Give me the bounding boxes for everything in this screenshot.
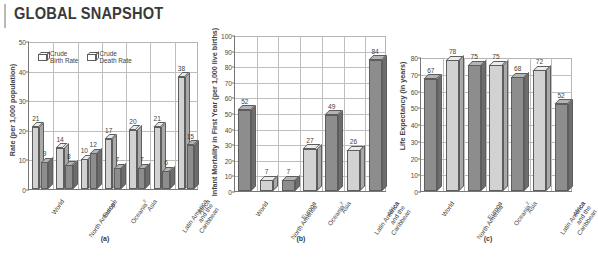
y-tick-label: 80 xyxy=(411,55,421,62)
y-axis-label-b: Infant Mortality in First Year (per 1,00… xyxy=(208,30,222,194)
y-tick-label: 10 xyxy=(19,157,29,164)
gridline-vertical xyxy=(300,36,301,191)
gridline-vertical xyxy=(508,58,509,191)
bar-value-label: 38 xyxy=(178,65,185,72)
bar-value-label: 75 xyxy=(492,53,499,60)
gridline-vertical xyxy=(344,36,345,191)
panel-caption-b: (b) xyxy=(208,235,394,242)
bar-value-label: 21 xyxy=(32,115,39,122)
gridline-vertical xyxy=(322,36,323,191)
bar-value-label: 21 xyxy=(154,115,161,122)
bar-value-label: 14 xyxy=(56,136,63,143)
bar-value-label: 15 xyxy=(187,133,194,140)
light-cube-icon xyxy=(38,52,47,61)
legend-label-death-rate: Crude Death Rate xyxy=(99,50,131,65)
bar-value-label: 10 xyxy=(81,147,88,154)
bar-value-label: 12 xyxy=(89,141,96,148)
bar-value-label: 6 xyxy=(164,159,168,166)
y-tick-label: 20 xyxy=(411,155,421,162)
bar-value-label: 8 xyxy=(67,153,71,160)
bar: 9 xyxy=(41,162,48,189)
y-tick-label: 60 xyxy=(225,95,235,102)
bar: 52 xyxy=(238,110,251,191)
page-title: GLOBAL SNAPSHOT xyxy=(14,4,163,24)
bar-value-label: 75 xyxy=(471,53,478,60)
chart-panel-c: Life Expectancy (in years) 0102030405060… xyxy=(396,30,580,262)
y-tick-label: 0 xyxy=(228,189,235,196)
bar-value-label: 26 xyxy=(350,138,357,145)
y-axis-label-c: Life Expectancy (in years) xyxy=(396,30,410,182)
bar: 20 xyxy=(129,130,136,189)
gridline-vertical xyxy=(551,58,552,191)
legend-label-birth-rate: Crude Birth Rate xyxy=(50,50,78,65)
bar: 27 xyxy=(303,149,316,191)
dark-cube-icon xyxy=(87,52,96,61)
legend-item-death-rate: Crude Death Rate xyxy=(87,50,131,65)
chart-panel-a: Rate (per 1,000 population) 010203040502… xyxy=(6,30,204,262)
gridline-horizontal xyxy=(29,101,198,102)
gridline-vertical xyxy=(443,58,444,191)
x-axis-label: World xyxy=(441,200,456,218)
gridline-vertical xyxy=(464,58,465,191)
y-tick-label: 0 xyxy=(22,187,29,194)
chart-panel-b: Infant Mortality in First Year (per 1,00… xyxy=(208,30,394,262)
bar-value-label: 52 xyxy=(241,98,248,105)
y-tick-label: 30 xyxy=(225,142,235,149)
y-tick-label: 50 xyxy=(19,39,29,46)
gridline-vertical xyxy=(175,42,176,189)
y-tick-label: 0 xyxy=(414,189,421,196)
gridline-vertical xyxy=(486,58,487,191)
bar-value-label: 7 xyxy=(286,168,290,175)
y-axis-label-a: Rate (per 1,000 population) xyxy=(6,30,20,190)
y-tick-label: 30 xyxy=(411,138,421,145)
gridline-vertical xyxy=(278,36,279,191)
bar: 72 xyxy=(533,70,546,191)
bar: 15 xyxy=(187,145,194,189)
y-tick-label: 70 xyxy=(225,79,235,86)
y-tick-label: 10 xyxy=(411,172,421,179)
panel-caption-c: (c) xyxy=(396,235,580,242)
bar: 75 xyxy=(468,65,481,191)
gridline-vertical xyxy=(530,58,531,191)
chart-legend: Crude Birth Rate Crude Death Rate xyxy=(38,50,132,65)
bar-value-label: 20 xyxy=(129,118,136,125)
bar: 21 xyxy=(32,127,39,189)
gridline-horizontal xyxy=(29,72,198,73)
y-tick-label: 30 xyxy=(19,98,29,105)
y-tick-label: 90 xyxy=(225,48,235,55)
plot-area-b: 0102030405060708090100527727492684 xyxy=(234,36,386,192)
y-tick-label: 80 xyxy=(225,64,235,71)
bar-value-label: 78 xyxy=(449,48,456,55)
bar-value-label: 27 xyxy=(306,137,313,144)
bar: 49 xyxy=(325,115,338,191)
y-tick-label: 40 xyxy=(225,126,235,133)
bar-value-label: 52 xyxy=(557,92,564,99)
x-axis-label: Oceania2 xyxy=(127,198,150,225)
bar: 67 xyxy=(424,79,437,191)
bar: 14 xyxy=(56,148,63,189)
x-axis-label: Asia xyxy=(145,198,158,212)
bar: 26 xyxy=(347,150,360,191)
bar-value-label: 9 xyxy=(43,150,47,157)
x-axis-label: World xyxy=(255,200,270,218)
y-tick-label: 20 xyxy=(225,157,235,164)
panel-caption-a: (a) xyxy=(6,235,204,242)
y-tick-label: 20 xyxy=(19,127,29,134)
gridline-vertical xyxy=(365,36,366,191)
bar: 38 xyxy=(178,77,185,189)
bar: 10 xyxy=(81,159,88,189)
x-axis-label: World xyxy=(50,198,65,216)
bar: 12 xyxy=(90,153,97,189)
bar-value-label: 17 xyxy=(105,127,112,134)
y-tick-label: 10 xyxy=(225,173,235,180)
y-tick-label: 70 xyxy=(411,71,421,78)
bar: 84 xyxy=(369,60,382,191)
bar: 68 xyxy=(511,77,524,191)
bar-value-label: 49 xyxy=(328,103,335,110)
bar: 21 xyxy=(154,127,161,189)
bar: 75 xyxy=(489,65,502,191)
bar: 17 xyxy=(105,139,112,189)
bar: 6 xyxy=(162,171,169,189)
y-tick-label: 60 xyxy=(411,88,421,95)
